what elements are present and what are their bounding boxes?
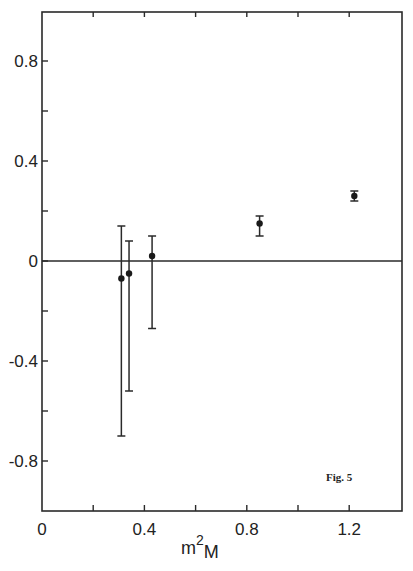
y-tick-label: -0.8 <box>9 452 38 471</box>
error-bar-point <box>148 236 156 329</box>
x-tick-label: 0.8 <box>235 520 259 539</box>
y-tick-label: -0.4 <box>9 352 38 371</box>
y-tick-label: 0 <box>29 252 38 271</box>
y-tick-label: 0.4 <box>14 152 38 171</box>
x-tick-label: 0 <box>37 520 46 539</box>
x-axis-label: m2M <box>181 532 219 562</box>
error-bar-point <box>256 216 264 236</box>
data-marker <box>351 193 357 199</box>
data-marker <box>149 253 155 259</box>
data-marker <box>126 270 132 276</box>
data-points <box>117 191 358 436</box>
x-tick-label: 1.2 <box>337 520 361 539</box>
y-tick-label: 0.8 <box>14 52 38 71</box>
data-marker <box>256 220 262 226</box>
tick-labels: -0.8-0.400.40.800.40.81.2 <box>9 52 361 539</box>
error-bar-point <box>117 226 125 436</box>
x-tick-label: 0.4 <box>133 520 157 539</box>
data-marker <box>118 275 124 281</box>
chart: -0.8-0.400.40.800.40.81.2 m2M Fig. 5 <box>0 0 413 571</box>
error-bar-point <box>125 241 133 391</box>
figure-annotation: Fig. 5 <box>326 471 353 483</box>
error-bar-point <box>350 191 358 201</box>
